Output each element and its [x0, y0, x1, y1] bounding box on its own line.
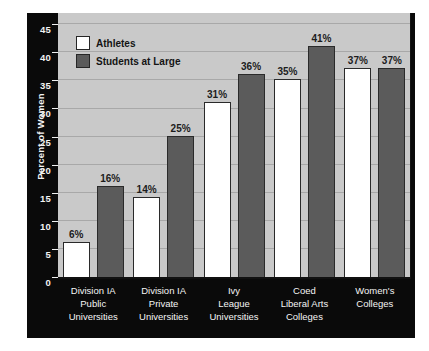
x-axis-category-label: Women'sColleges: [340, 281, 410, 338]
x-axis-category-line: League: [199, 297, 269, 310]
legend-item-athletes: Athletes: [76, 36, 180, 50]
bar-students-at-large[interactable]: 25%: [167, 136, 194, 277]
x-axis-category-line: Universities: [58, 310, 128, 323]
legend-item-students-at-large: Students at Large: [76, 54, 180, 68]
bar-value-label: 37%: [348, 55, 368, 66]
x-axis-category-line: Universities: [128, 310, 198, 323]
bar-athletes[interactable]: 31%: [204, 102, 231, 277]
bar-value-label: 16%: [100, 173, 120, 184]
x-axis-category-line: Women's: [340, 284, 410, 297]
bar-group: 37%37%: [340, 13, 410, 277]
bar-value-label: 25%: [171, 123, 191, 134]
x-axis-category-label: IvyLeagueUniversities: [199, 281, 269, 338]
plot-area: 6%16%14%25%31%36%35%41%37%37% Athletes S…: [58, 13, 411, 279]
bar-athletes[interactable]: 35%: [274, 79, 301, 277]
legend-label-athletes: Athletes: [96, 38, 135, 49]
bar-value-label: 37%: [382, 55, 402, 66]
x-axis-category-label: Division IAPrivateUniversities: [128, 281, 198, 338]
x-axis-category-label: Division IAPublicUniversities: [58, 281, 128, 338]
bar-group: 31%36%: [199, 13, 269, 277]
bar-athletes[interactable]: 6%: [63, 242, 90, 277]
bar-athletes[interactable]: 14%: [133, 197, 160, 277]
y-axis: Percent of Women 051015202530354045: [27, 13, 58, 279]
x-axis-categories: Division IAPublicUniversitiesDivision IA…: [58, 281, 410, 338]
legend: Athletes Students at Large: [76, 36, 180, 68]
bar-value-label: 14%: [137, 184, 157, 195]
bar-athletes[interactable]: 37%: [344, 68, 371, 277]
bar-group: 35%41%: [269, 13, 339, 277]
legend-swatch-icon-students-at-large: [76, 54, 90, 68]
x-axis-category-line: Liberal Arts: [269, 297, 339, 310]
bar-students-at-large[interactable]: 37%: [378, 68, 405, 277]
bar-students-at-large[interactable]: 16%: [97, 186, 124, 277]
bar-value-label: 35%: [277, 66, 297, 77]
x-axis-line: [58, 277, 410, 279]
bar-value-label: 31%: [207, 89, 227, 100]
x-axis-category-line: Colleges: [269, 310, 339, 323]
bar-students-at-large[interactable]: 41%: [308, 46, 335, 277]
x-axis-category-line: Public: [58, 297, 128, 310]
legend-label-students-at-large: Students at Large: [96, 56, 180, 67]
x-axis-category-label: CoedLiberal ArtsColleges: [269, 281, 339, 338]
plot-inner: 6%16%14%25%31%36%35%41%37%37% Athletes S…: [58, 13, 410, 279]
x-axis-category-line: Ivy: [199, 284, 269, 297]
chart-figure: Percent of Women 051015202530354045 6%16…: [0, 0, 429, 351]
x-axis-category-line: Private: [128, 297, 198, 310]
x-axis-category-line: Colleges: [340, 297, 410, 310]
bar-value-label: 6%: [69, 229, 83, 240]
legend-swatch-icon-athletes: [76, 36, 90, 50]
x-axis-category-line: Coed: [269, 284, 339, 297]
bar-value-label: 41%: [311, 33, 331, 44]
x-axis-category-line: Division IA: [128, 284, 198, 297]
x-axis-category-line: Division IA: [58, 284, 128, 297]
bar-students-at-large[interactable]: 36%: [238, 74, 265, 277]
bar-value-label: 36%: [241, 61, 261, 72]
x-axis-category-line: Universities: [199, 310, 269, 323]
